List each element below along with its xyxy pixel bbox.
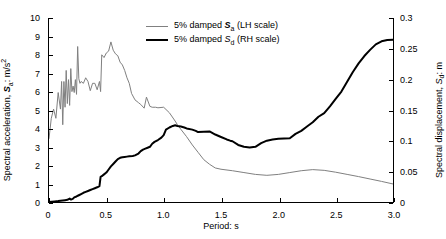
legend-swatch-spectral-displacement [146,39,168,41]
y-axis-left-tick [49,111,53,112]
y-axis-right-tick-label: 0.15 [400,106,418,115]
y-axis-left-tick [49,18,53,19]
legend-swatch-spectral-acceleration [146,26,168,27]
spectral-response-chart: Spectral acceleration, Sa: m/s2 Spectral… [0,0,446,239]
x-axis-tick-label: 2.5 [330,211,343,220]
x-axis-tick-label: 2.0 [272,211,285,220]
y-axis-right-tick-label: 0.05 [400,168,418,177]
y-axis-left-tick-label: 9 [0,32,40,41]
y-axis-left-tick [49,129,53,130]
legend-1-suffix: (RH scale) [234,34,279,44]
x-axis-tick-label: 1.5 [215,211,228,220]
x-axis-title: Period: s [48,222,394,231]
y-axis-right-tick-label: 0.2 [400,75,413,84]
y-axis-left-tick [49,185,53,186]
y-axis-right-tick [389,172,393,173]
y-axis-right-tick [389,80,393,81]
series-line-spectral-acceleration [49,42,393,184]
legend-0-prefix: 5% damped [174,20,225,30]
y-axis-right-tick [389,203,393,204]
y-axis-right-tick [389,49,393,50]
x-axis-tick [222,198,223,202]
y-axis-left-tick-label: 3 [0,143,40,152]
y-axis-left-tick-label: 10 [0,14,40,23]
x-axis-tick-label: 0.5 [99,211,112,220]
x-axis-tick [337,198,338,202]
legend-item-spectral-displacement: 5% damped Sd (RH scale) [146,34,279,46]
y-axis-left-tick-label: 4 [0,125,40,134]
y-axis-right-title-prefix: Spectral displacement, [434,84,444,178]
y-axis-right-tick [389,141,393,142]
x-axis-tick [164,198,165,202]
x-axis-tick-label: 3.0 [388,211,401,220]
y-axis-right-title: Spectral displacement, Sd: m [435,27,446,212]
y-axis-left-tick-label: 0 [0,199,40,208]
y-axis-left-tick [49,92,53,93]
y-axis-right-tick [389,111,393,112]
y-axis-left-tick-label: 7 [0,69,40,78]
x-axis-tick-label: 0 [45,211,50,220]
x-axis-tick-label: 1.0 [157,211,170,220]
y-axis-right-symbol: S [434,78,444,84]
x-axis-tick [394,198,395,202]
y-axis-left-tick [49,148,53,149]
legend-item-spectral-acceleration: 5% damped Sa (LH scale) [146,20,279,32]
y-axis-right-tick-label: 0.1 [400,137,413,146]
y-axis-left-tick-label: 2 [0,162,40,171]
x-axis-tick [49,198,50,202]
y-axis-left-tick [49,203,53,204]
y-axis-left-tick [49,74,53,75]
y-axis-left-tick-label: 6 [0,88,40,97]
y-axis-left-tick-label: 5 [0,106,40,115]
series-line-spectral-displacement [49,40,393,202]
y-axis-right-tick-label: 0.3 [400,14,413,23]
x-axis-tick [280,198,281,202]
y-axis-right-tick [389,18,393,19]
legend-1-prefix: 5% damped [174,34,225,44]
y-axis-left-tick-label: 8 [0,51,40,60]
chart-legend: 5% damped Sa (LH scale) 5% damped Sd (RH… [146,20,279,48]
y-axis-right-subscript: d [438,74,445,78]
legend-label-spectral-acceleration: 5% damped Sa (LH scale) [174,21,278,32]
legend-0-suffix: (LH scale) [234,20,278,30]
legend-label-spectral-displacement: 5% damped Sd (RH scale) [174,35,279,46]
y-axis-right-tick-label: 0 [400,199,405,208]
x-axis-tick [107,198,108,202]
y-axis-right-tick-label: 0.25 [400,44,418,53]
y-axis-left-tick [49,37,53,38]
y-axis-left-tick [49,55,53,56]
y-axis-left-tick-label: 1 [0,180,40,189]
y-axis-right-title-suffix: : m [434,62,444,75]
y-axis-left-tick [49,166,53,167]
